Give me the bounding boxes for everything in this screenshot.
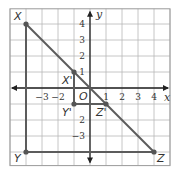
point-label-z: Z: [156, 152, 165, 165]
x-axis-label: x: [164, 91, 171, 104]
x-axis-arrow-left-icon: [11, 85, 17, 91]
point-label-y-prime: Y': [62, 106, 72, 119]
coordinate-diagram: −3−2123443212−3 X Y Z X' Y' Z' O x y: [0, 0, 178, 177]
x-tick-label: −2: [51, 92, 64, 102]
point-X: [23, 21, 28, 26]
y-tick-label: 3: [79, 35, 85, 45]
point-label-y: Y: [14, 152, 22, 165]
origin-label: O: [79, 90, 88, 103]
y-axis-arrow-up-icon: [87, 11, 93, 17]
point-Z: [151, 149, 156, 154]
y-tick-label: 2: [79, 115, 85, 125]
x-tick-label: −3: [35, 92, 49, 102]
y-tick-label: 4: [79, 19, 85, 29]
y-axis-arrow-down-icon: [87, 158, 93, 164]
point-Y: [23, 149, 28, 154]
x-tick-label: 4: [151, 92, 157, 102]
point-label-x-prime: X': [61, 74, 73, 87]
y-tick-label: 2: [79, 51, 85, 61]
x-tick-label: 2: [119, 92, 125, 102]
y-axis-label: y: [95, 8, 103, 21]
y-tick-label: 1: [79, 67, 85, 77]
tick-labels: −3−2123443212−3: [35, 19, 157, 141]
x-tick-label: 3: [135, 92, 141, 102]
point-label-x: X: [13, 10, 22, 23]
point-Y': [71, 101, 76, 106]
point-label-z-prime: Z': [95, 106, 107, 119]
y-tick-label: −3: [72, 131, 86, 141]
x-tick-label: 1: [103, 92, 109, 102]
